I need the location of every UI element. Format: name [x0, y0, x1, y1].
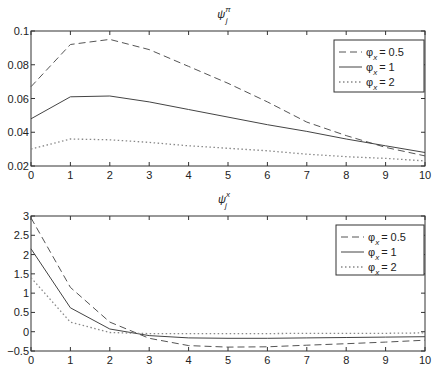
x-tick-label: 3	[146, 169, 152, 181]
y-tick-label: 0	[23, 326, 29, 338]
x-tick-label: 5	[225, 354, 231, 366]
top-plot-psi-pi: ψπj0123456789100.020.040.060.080.1φx= 0.…	[8, 5, 432, 181]
y-tick-label: 0.04	[8, 126, 29, 138]
x-tick-label: 2	[107, 169, 113, 181]
x-tick-label: 10	[419, 354, 431, 366]
x-tick-label: 1	[67, 354, 73, 366]
x-tick-label: 3	[146, 354, 152, 366]
x-tick-label: 6	[264, 169, 270, 181]
x-tick-label: 6	[264, 354, 270, 366]
x-tick-label: 5	[225, 169, 231, 181]
chart-canvas: ψπj0123456789100.020.040.060.080.1φx= 0.…	[0, 0, 439, 375]
legend: φx= 0.5φx= 1φx= 2	[334, 40, 424, 92]
x-tick-label: 7	[304, 169, 310, 181]
y-tick-label: 1	[23, 287, 29, 299]
y-tick-label: 0.08	[8, 59, 29, 71]
x-tick-label: 7	[304, 354, 310, 366]
x-tick-label: 9	[383, 169, 389, 181]
x-tick-label: 4	[186, 354, 192, 366]
figure: ψπj0123456789100.020.040.060.080.1φx= 0.…	[0, 0, 439, 375]
y-tick-label: 1.5	[14, 268, 29, 280]
x-tick-label: 8	[343, 354, 349, 366]
x-tick-label: 8	[343, 169, 349, 181]
legend: φx= 0.5φx= 1φx= 2	[336, 225, 424, 277]
plot-title: ψxj	[218, 190, 231, 210]
x-tick-label: 1	[67, 169, 73, 181]
x-tick-label: 4	[186, 169, 192, 181]
y-tick-label: 0.5	[14, 306, 29, 318]
y-tick-label: 2.5	[14, 229, 29, 241]
x-tick-label: 10	[419, 169, 431, 181]
plot-title: ψπj	[217, 5, 231, 25]
y-tick-label: 0.1	[14, 25, 29, 37]
x-tick-label: 9	[383, 354, 389, 366]
y-tick-label: −0.5	[7, 345, 29, 357]
y-tick-label: 2	[23, 249, 29, 261]
bottom-plot-psi-x: ψxj012345678910−0.500.511.522.53φx= 0.5φ…	[7, 190, 431, 366]
y-tick-label: 0.02	[8, 160, 29, 172]
y-tick-label: 0.06	[8, 93, 29, 105]
y-tick-label: 3	[23, 210, 29, 222]
x-tick-label: 2	[107, 354, 113, 366]
